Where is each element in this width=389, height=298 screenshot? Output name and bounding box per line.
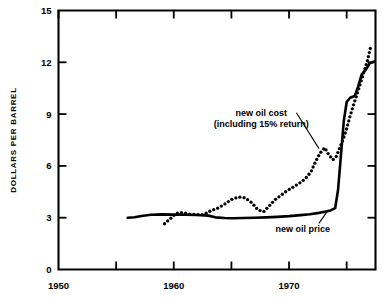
dot-marker [313, 162, 316, 165]
dot-marker [341, 139, 344, 142]
dot-marker [208, 210, 211, 213]
dot-marker [298, 181, 301, 184]
dot-marker [271, 201, 274, 204]
oil-price-chart: 03691215 195019601970 new oil cost(inclu… [0, 0, 389, 298]
dot-marker [345, 127, 348, 130]
new-oil-price-label-line1: new oil price [276, 224, 331, 234]
y-tick-label-6: 6 [46, 160, 51, 171]
dot-marker [335, 155, 338, 158]
dot-marker [169, 216, 172, 219]
dot-marker [249, 201, 252, 204]
dot-marker [315, 158, 318, 161]
dot-marker [284, 190, 287, 193]
dot-marker [368, 51, 371, 54]
new-oil-cost-label-line2: (including 15% return) [214, 119, 309, 129]
dot-marker [311, 165, 314, 168]
dot-marker [180, 211, 183, 214]
dot-marker [274, 198, 277, 201]
dot-marker [288, 188, 291, 191]
x-tick-label-1970: 1970 [278, 280, 299, 291]
dot-marker [338, 147, 341, 150]
dot-marker [201, 213, 204, 216]
dot-marker [361, 75, 364, 78]
dot-marker [353, 99, 356, 102]
dot-marker [212, 208, 215, 211]
dot-marker [205, 212, 208, 215]
dot-marker [184, 212, 187, 215]
dot-marker [305, 176, 308, 179]
dot-marker [365, 63, 368, 66]
dot-marker [281, 193, 284, 196]
dot-marker [369, 47, 372, 50]
dot-marker [344, 131, 347, 134]
dot-marker [352, 103, 355, 106]
dot-marker [307, 173, 310, 176]
dot-marker [238, 196, 241, 199]
dot-marker [332, 158, 335, 161]
dot-marker [262, 210, 265, 213]
dot-marker [176, 212, 179, 215]
dot-marker [188, 213, 191, 216]
dot-marker [216, 207, 219, 210]
dot-marker [220, 204, 223, 207]
dot-marker [355, 95, 358, 98]
dot-marker [326, 152, 329, 155]
dot-marker [329, 155, 332, 158]
dot-marker [339, 143, 342, 146]
dot-marker [348, 115, 351, 118]
dot-marker [324, 148, 327, 151]
dot-marker [277, 195, 280, 198]
dot-marker [367, 55, 370, 58]
x-tick-label-1960: 1960 [163, 280, 184, 291]
dot-marker [319, 151, 322, 154]
dot-marker [342, 135, 345, 138]
dot-marker [336, 151, 339, 154]
dot-marker [363, 67, 366, 70]
dot-marker [317, 154, 320, 157]
dot-marker [291, 186, 294, 189]
dot-marker [230, 198, 233, 201]
dot-marker [166, 219, 169, 222]
y-axis-title: DOLLARS PER BARREL [9, 87, 18, 193]
dot-marker [242, 196, 245, 199]
dot-marker [223, 202, 226, 205]
dot-marker [227, 200, 230, 203]
dot-marker [192, 213, 195, 216]
dot-marker [357, 87, 360, 90]
y-tick-label-9: 9 [46, 109, 51, 120]
x-tick-label-1950: 1950 [48, 280, 69, 291]
dot-marker [360, 79, 363, 82]
dot-marker [258, 209, 261, 212]
dot-marker [358, 83, 361, 86]
dot-marker [246, 198, 249, 201]
dot-marker [346, 123, 349, 126]
dot-marker [268, 204, 271, 207]
dot-marker [196, 213, 199, 216]
dot-marker [349, 111, 352, 114]
y-tick-label-3: 3 [46, 212, 51, 223]
y-tick-label-12: 12 [41, 57, 52, 68]
y-tick-label-15: 15 [41, 5, 52, 16]
dot-marker [351, 107, 354, 110]
dot-marker [252, 204, 255, 207]
dot-marker [362, 71, 365, 74]
y-tick-label-0: 0 [46, 264, 51, 275]
new-oil-cost-label-line1: new oil cost [236, 108, 288, 118]
dot-marker [347, 119, 350, 122]
dot-marker [163, 222, 166, 225]
dot-marker [295, 183, 298, 186]
dot-marker [302, 179, 305, 182]
dot-marker [310, 169, 313, 172]
dot-marker [356, 91, 359, 94]
dot-marker [265, 207, 268, 210]
dot-marker [255, 207, 258, 210]
dot-marker [172, 214, 175, 217]
dot-marker [234, 196, 237, 199]
dot-marker [366, 59, 369, 62]
